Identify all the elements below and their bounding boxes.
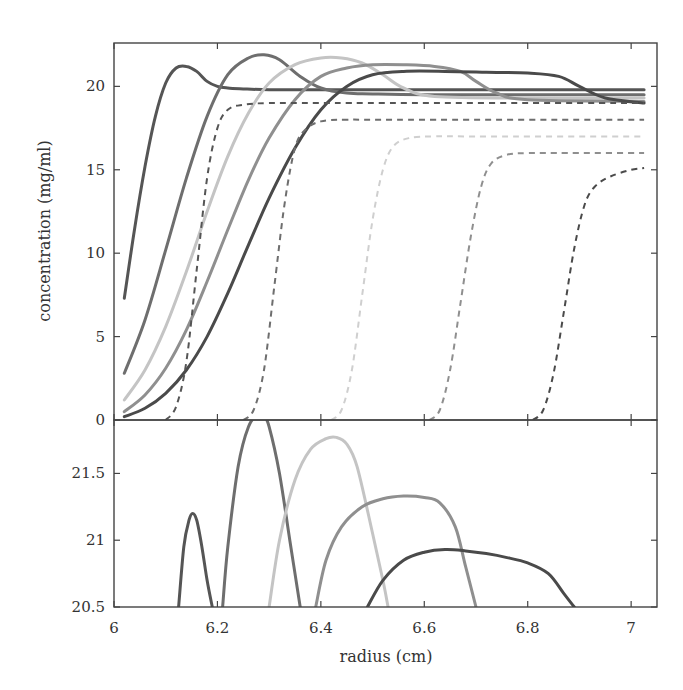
series-line-solid-5 <box>124 71 644 417</box>
y-tick-label: 20 <box>86 77 105 95</box>
y-tick-label: 21 <box>86 531 105 549</box>
series-line-dashed-3 <box>331 136 644 420</box>
x-tick-label: 6.4 <box>309 619 333 637</box>
series-line-solid-3 <box>124 57 644 400</box>
series-line-dashed-4 <box>430 153 645 420</box>
series-line-solid-4 <box>124 64 644 411</box>
series-line-peak-1 <box>179 514 213 608</box>
x-tick-label: 6.8 <box>516 619 540 637</box>
bottom-series-lines <box>179 413 575 607</box>
series-line-peak-5 <box>367 550 574 607</box>
x-tick-label: 6 <box>109 619 119 637</box>
y-tick-label: 15 <box>86 161 105 179</box>
bottom-panel-plot: 66.26.46.66.8720.52121.5 <box>72 413 657 637</box>
series-line-peak-2 <box>223 413 301 607</box>
y-tick-label: 20.5 <box>72 598 105 616</box>
x-tick-label: 7 <box>626 619 636 637</box>
series-line-dashed-2 <box>243 120 644 420</box>
y-tick-label: 21.5 <box>72 464 105 482</box>
top-panel-plot: 05101520 <box>86 43 657 429</box>
top-series-lines <box>124 55 644 420</box>
y-tick-label: 5 <box>95 328 105 346</box>
bottom-axes: 66.26.46.66.8720.52121.5 <box>72 420 657 637</box>
x-tick-label: 6.2 <box>205 619 229 637</box>
x-axis-label: radius (cm) <box>340 647 433 666</box>
y-tick-label: 0 <box>95 411 105 429</box>
figure: 05101520 66.26.46.66.8720.52121.5 concen… <box>0 0 683 690</box>
series-line-peak-4 <box>316 496 476 607</box>
y-tick-label: 10 <box>86 244 105 262</box>
x-tick-label: 6.6 <box>412 619 436 637</box>
y-axis-label: concentration (mg/ml) <box>35 140 54 321</box>
series-line-dashed-5 <box>533 168 644 420</box>
